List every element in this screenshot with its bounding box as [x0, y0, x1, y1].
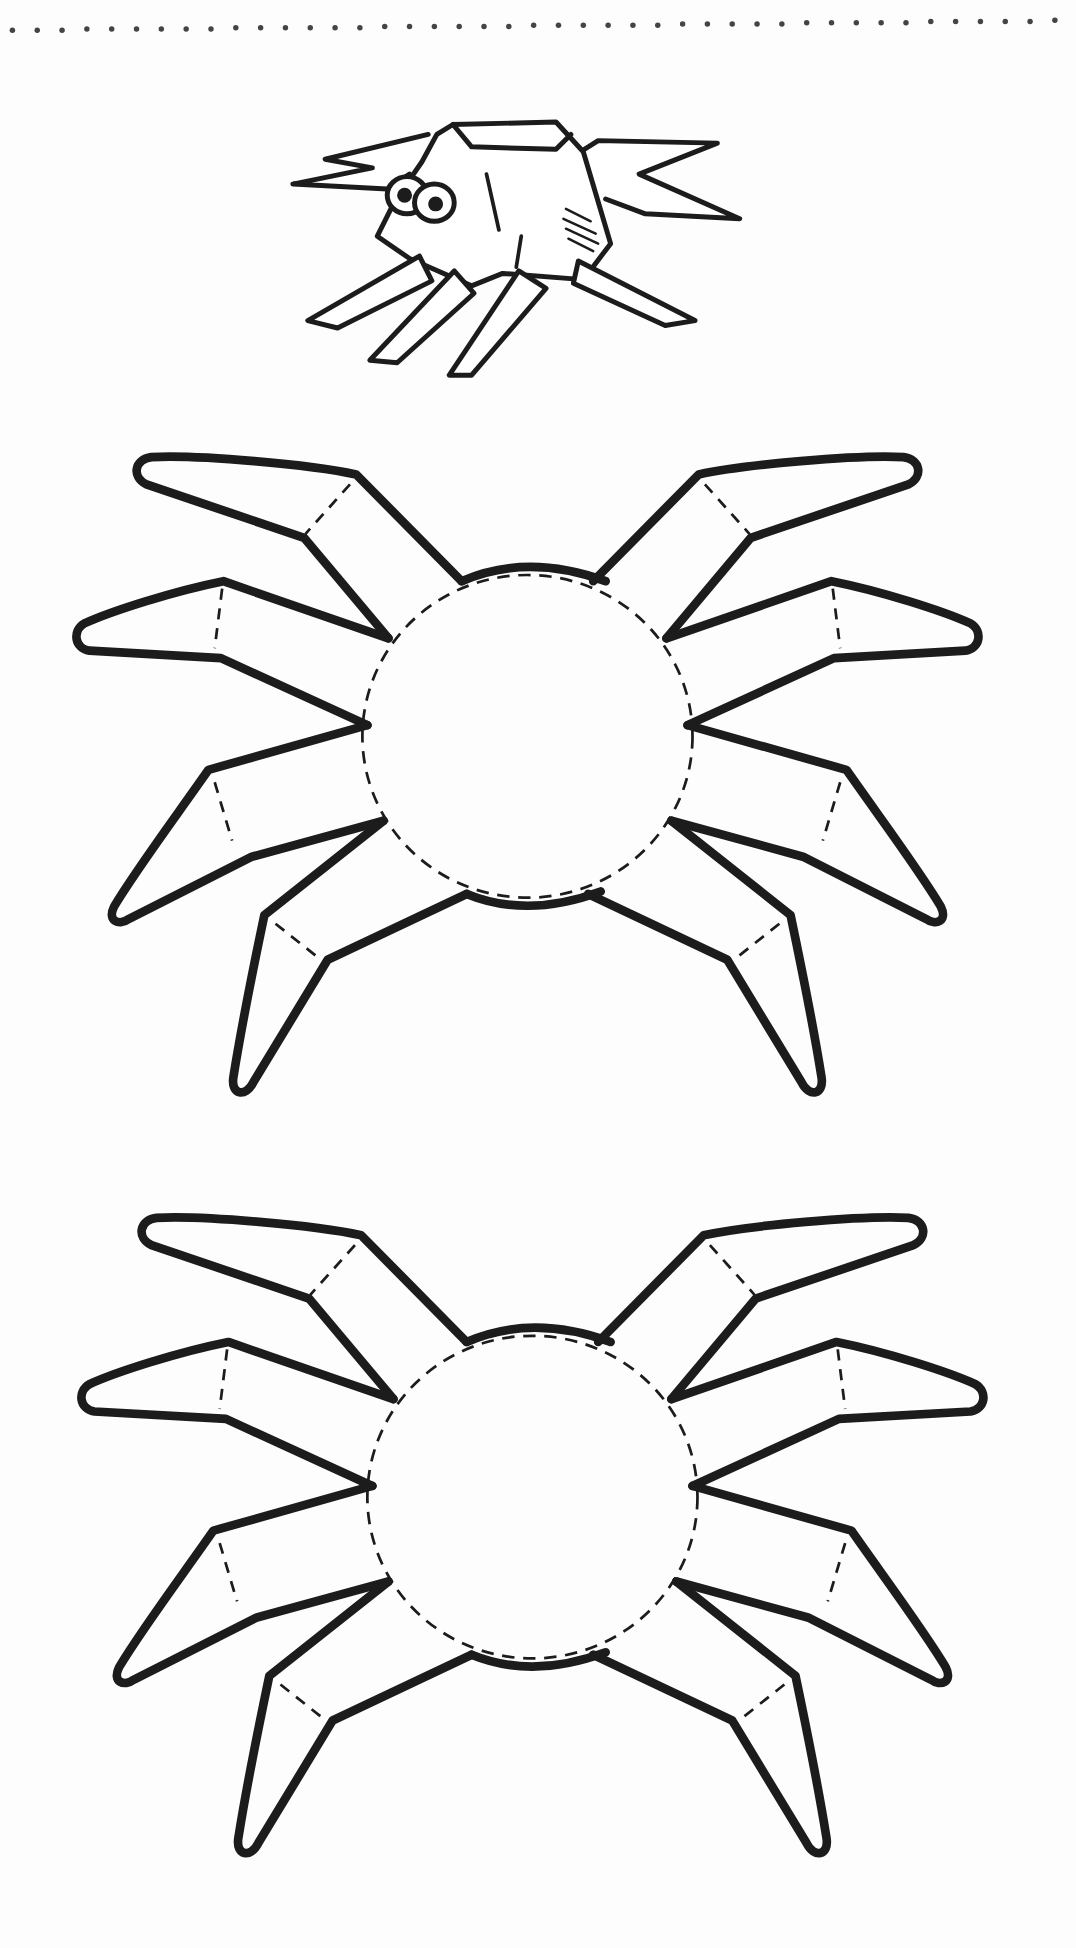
template-drawing	[0, 0, 1076, 1948]
spider-template-2	[81, 1217, 983, 1853]
example-spider-illustration	[293, 122, 740, 375]
spider-template-1	[76, 457, 978, 1093]
perforation-line	[10, 18, 1058, 33]
template-sheet: Spider cut-out template	[0, 0, 1076, 1948]
